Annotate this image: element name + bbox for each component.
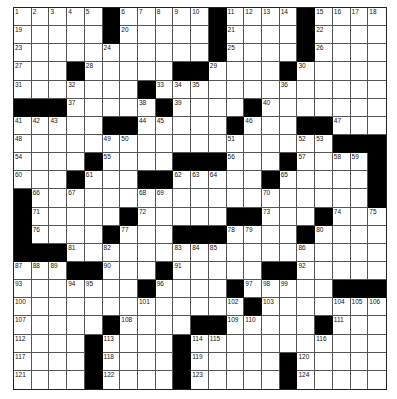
crossword-cell[interactable]: 43: [49, 117, 67, 135]
crossword-cell[interactable]: 123: [191, 371, 209, 389]
crossword-cell[interactable]: [351, 189, 369, 207]
crossword-cell[interactable]: [227, 244, 245, 262]
crossword-cell[interactable]: 38: [138, 99, 156, 117]
crossword-cell[interactable]: 74: [333, 208, 351, 226]
crossword-cell[interactable]: 119: [191, 353, 209, 371]
crossword-cell[interactable]: [156, 208, 174, 226]
crossword-cell[interactable]: 77: [120, 226, 138, 244]
crossword-cell[interactable]: [351, 353, 369, 371]
crossword-cell[interactable]: 80: [315, 226, 333, 244]
crossword-cell[interactable]: 96: [156, 280, 174, 298]
crossword-cell[interactable]: [67, 135, 85, 153]
crossword-cell[interactable]: 71: [32, 208, 50, 226]
crossword-cell[interactable]: 120: [297, 353, 315, 371]
crossword-cell[interactable]: [138, 371, 156, 389]
crossword-cell[interactable]: 108: [120, 316, 138, 334]
crossword-cell[interactable]: [49, 171, 67, 189]
crossword-cell[interactable]: [351, 44, 369, 62]
crossword-cell[interactable]: [209, 262, 227, 280]
crossword-cell[interactable]: 59: [351, 153, 369, 171]
crossword-cell[interactable]: [315, 371, 333, 389]
crossword-cell[interactable]: [173, 117, 191, 135]
crossword-cell[interactable]: [262, 81, 280, 99]
crossword-cell[interactable]: [227, 371, 245, 389]
crossword-cell[interactable]: [120, 153, 138, 171]
crossword-cell[interactable]: [138, 244, 156, 262]
crossword-cell[interactable]: [244, 135, 262, 153]
crossword-cell[interactable]: [244, 171, 262, 189]
crossword-cell[interactable]: [333, 99, 351, 117]
crossword-cell[interactable]: [67, 117, 85, 135]
crossword-cell[interactable]: 116: [315, 335, 333, 353]
crossword-cell[interactable]: 58: [333, 153, 351, 171]
crossword-cell[interactable]: [191, 262, 209, 280]
crossword-cell[interactable]: 69: [156, 189, 174, 207]
crossword-cell[interactable]: [227, 62, 245, 80]
crossword-cell[interactable]: 118: [103, 353, 121, 371]
crossword-cell[interactable]: 90: [103, 262, 121, 280]
crossword-cell[interactable]: [315, 244, 333, 262]
crossword-cell[interactable]: 37: [67, 99, 85, 117]
crossword-cell[interactable]: [280, 99, 298, 117]
crossword-cell[interactable]: [209, 117, 227, 135]
crossword-cell[interactable]: [173, 316, 191, 334]
crossword-cell[interactable]: 92: [297, 262, 315, 280]
crossword-cell[interactable]: [280, 335, 298, 353]
crossword-cell[interactable]: 66: [32, 189, 50, 207]
crossword-cell[interactable]: [244, 189, 262, 207]
crossword-cell[interactable]: [333, 226, 351, 244]
crossword-cell[interactable]: [120, 298, 138, 316]
crossword-cell[interactable]: [191, 208, 209, 226]
crossword-cell[interactable]: [244, 81, 262, 99]
crossword-cell[interactable]: 83: [173, 244, 191, 262]
crossword-cell[interactable]: [85, 244, 103, 262]
crossword-cell[interactable]: [191, 135, 209, 153]
crossword-cell[interactable]: [280, 135, 298, 153]
crossword-cell[interactable]: [333, 26, 351, 44]
crossword-cell[interactable]: 18: [368, 8, 386, 26]
crossword-cell[interactable]: 85: [209, 244, 227, 262]
crossword-cell[interactable]: 42: [32, 117, 50, 135]
crossword-cell[interactable]: [209, 81, 227, 99]
crossword-cell[interactable]: [85, 189, 103, 207]
crossword-cell[interactable]: [351, 262, 369, 280]
crossword-cell[interactable]: [85, 135, 103, 153]
crossword-cell[interactable]: 94: [67, 280, 85, 298]
crossword-cell[interactable]: [297, 189, 315, 207]
crossword-cell[interactable]: [297, 81, 315, 99]
crossword-cell[interactable]: 48: [14, 135, 32, 153]
crossword-cell[interactable]: 79: [244, 226, 262, 244]
crossword-cell[interactable]: 93: [14, 280, 32, 298]
crossword-cell[interactable]: 110: [244, 316, 262, 334]
crossword-cell[interactable]: 23: [14, 44, 32, 62]
crossword-cell[interactable]: [32, 26, 50, 44]
crossword-cell[interactable]: [120, 62, 138, 80]
crossword-cell[interactable]: [315, 62, 333, 80]
crossword-cell[interactable]: [138, 262, 156, 280]
crossword-cell[interactable]: [49, 208, 67, 226]
crossword-cell[interactable]: 103: [262, 298, 280, 316]
crossword-cell[interactable]: [333, 171, 351, 189]
crossword-cell[interactable]: [262, 44, 280, 62]
crossword-cell[interactable]: 33: [156, 81, 174, 99]
crossword-cell[interactable]: [138, 62, 156, 80]
crossword-cell[interactable]: 84: [191, 244, 209, 262]
crossword-cell[interactable]: 91: [173, 262, 191, 280]
crossword-cell[interactable]: 105: [351, 298, 369, 316]
crossword-cell[interactable]: [49, 189, 67, 207]
crossword-cell[interactable]: [297, 99, 315, 117]
crossword-cell[interactable]: [156, 316, 174, 334]
crossword-cell[interactable]: 55: [103, 153, 121, 171]
crossword-cell[interactable]: 89: [49, 262, 67, 280]
crossword-cell[interactable]: [173, 26, 191, 44]
crossword-cell[interactable]: 117: [14, 353, 32, 371]
crossword-cell[interactable]: [315, 298, 333, 316]
crossword-cell[interactable]: 62: [173, 171, 191, 189]
crossword-cell[interactable]: 76: [32, 226, 50, 244]
crossword-cell[interactable]: [209, 353, 227, 371]
crossword-cell[interactable]: [191, 44, 209, 62]
crossword-cell[interactable]: 78: [227, 226, 245, 244]
crossword-cell[interactable]: 5: [85, 8, 103, 26]
crossword-cell[interactable]: [280, 298, 298, 316]
crossword-cell[interactable]: [173, 298, 191, 316]
